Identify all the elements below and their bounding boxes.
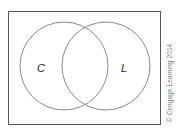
set-c-label: C [37,62,45,74]
set-l-circle [62,22,150,110]
set-c-circle [20,22,108,110]
copyright-credit: © Cengage Learning 2014 [166,44,173,123]
set-l-label: L [121,62,127,74]
venn-diagram: C L [0,0,181,134]
universe-rectangle [9,12,161,125]
